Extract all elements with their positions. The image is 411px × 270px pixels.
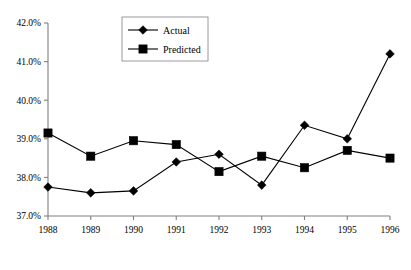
x-axis-tick-label: 1995 xyxy=(338,225,357,235)
line-chart: 37.0%38.0%39.0%40.0%41.0%42.0% 198819891… xyxy=(0,0,411,270)
x-axis-tick-label: 1996 xyxy=(381,225,400,235)
data-point-marker xyxy=(86,189,95,198)
data-point-marker xyxy=(386,50,395,59)
data-point-marker xyxy=(343,146,351,154)
x-axis-tick-label: 1989 xyxy=(81,225,100,235)
x-axis-tick-label: 1992 xyxy=(210,225,229,235)
x-axis-tick-label: 1991 xyxy=(167,225,186,235)
y-axis-tick-label: 38.0% xyxy=(16,173,41,183)
y-axis-tick-labels: 37.0%38.0%39.0%40.0%41.0%42.0% xyxy=(16,18,41,221)
data-point-marker xyxy=(129,137,137,145)
data-point-marker xyxy=(44,129,52,137)
data-point-marker xyxy=(386,154,394,162)
legend-label: Predicted xyxy=(163,44,201,55)
data-point-marker xyxy=(129,187,138,196)
data-point-marker xyxy=(258,152,266,160)
chart-legend: ActualPredicted xyxy=(122,17,208,61)
chart-canvas: 37.0%38.0%39.0%40.0%41.0%42.0% 198819891… xyxy=(0,0,411,270)
legend-square-icon xyxy=(139,45,147,53)
data-point-marker xyxy=(215,168,223,176)
x-axis-tick-label: 1994 xyxy=(295,225,314,235)
data-point-marker xyxy=(44,183,53,192)
data-point-marker xyxy=(300,121,309,130)
x-axis-tick-label: 1988 xyxy=(39,225,58,235)
data-point-marker xyxy=(87,152,95,160)
x-axis-tick-label: 1993 xyxy=(252,225,271,235)
data-point-marker xyxy=(172,140,180,148)
legend-item-predicted: Predicted xyxy=(128,44,201,55)
data-series xyxy=(44,50,395,198)
y-axis-tick-label: 41.0% xyxy=(16,57,41,67)
data-point-marker xyxy=(343,135,352,144)
data-point-marker xyxy=(172,158,181,167)
data-point-marker xyxy=(257,181,266,190)
y-axis-tick-label: 39.0% xyxy=(16,134,41,144)
data-point-marker xyxy=(300,164,308,172)
data-point-marker xyxy=(215,150,224,159)
legend-label: Actual xyxy=(163,25,190,36)
y-axis-tick-label: 40.0% xyxy=(16,96,41,106)
axes xyxy=(44,23,390,220)
x-axis-tick-label: 1990 xyxy=(124,225,143,235)
x-axis-tick-labels: 198819891990199119921993199419951996 xyxy=(39,225,400,235)
y-axis-tick-label: 37.0% xyxy=(16,211,41,221)
y-axis-tick-label: 42.0% xyxy=(16,18,41,28)
